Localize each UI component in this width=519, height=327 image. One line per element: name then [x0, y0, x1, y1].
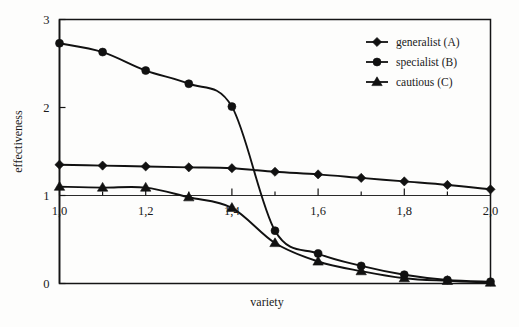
- marker-triangle: [270, 238, 280, 247]
- marker-diamond: [372, 37, 381, 46]
- y-tick-label: 0: [43, 277, 49, 291]
- series-1: [55, 160, 495, 194]
- y-tick-label: 1: [43, 189, 49, 203]
- marker-circle: [142, 67, 150, 75]
- x-tick-label: 1,0: [52, 204, 68, 218]
- marker-diamond: [141, 162, 150, 171]
- legend-item-label: generalist (A): [396, 36, 460, 49]
- marker-diamond: [443, 180, 452, 189]
- marker-circle: [56, 39, 64, 47]
- marker-circle: [228, 103, 236, 111]
- legend-item-1[interactable]: generalist (A): [366, 36, 460, 49]
- x-tick-label: 1,4: [224, 204, 240, 218]
- marker-circle: [271, 227, 279, 235]
- marker-diamond: [314, 170, 323, 179]
- marker-diamond: [400, 177, 409, 186]
- y-axis-title: effectiveness: [11, 110, 25, 173]
- legend-item-2[interactable]: specialist (B): [366, 56, 457, 69]
- x-axis-title: variety: [250, 295, 283, 309]
- marker-diamond: [227, 164, 236, 173]
- chart-figure: 1,01,21,41,61,82,00123 generalist (A)spe…: [0, 0, 519, 327]
- marker-diamond: [98, 161, 107, 170]
- legend-item-label: specialist (B): [396, 56, 457, 69]
- y-tick-label: 3: [43, 13, 49, 27]
- marker-circle: [185, 80, 193, 88]
- x-tick-label: 1,8: [396, 204, 412, 218]
- marker-diamond: [55, 160, 64, 169]
- y-tick-label: 2: [43, 101, 49, 115]
- marker-circle: [99, 48, 107, 56]
- chart-plot-area: 1,01,21,41,61,82,00123 generalist (A)spe…: [0, 0, 519, 327]
- legend-item-3[interactable]: cautious (C): [366, 76, 453, 89]
- marker-diamond: [357, 173, 366, 182]
- chart-legend: generalist (A)specialist (B)cautious (C): [366, 36, 460, 89]
- marker-diamond: [486, 185, 495, 194]
- x-tick-label: 1,6: [310, 204, 326, 218]
- marker-diamond: [270, 167, 279, 176]
- marker-circle: [373, 58, 381, 66]
- legend-item-label: cautious (C): [396, 76, 453, 89]
- x-tick-label: 2,0: [483, 204, 499, 218]
- marker-diamond: [184, 163, 193, 172]
- x-tick-label: 1,2: [138, 204, 154, 218]
